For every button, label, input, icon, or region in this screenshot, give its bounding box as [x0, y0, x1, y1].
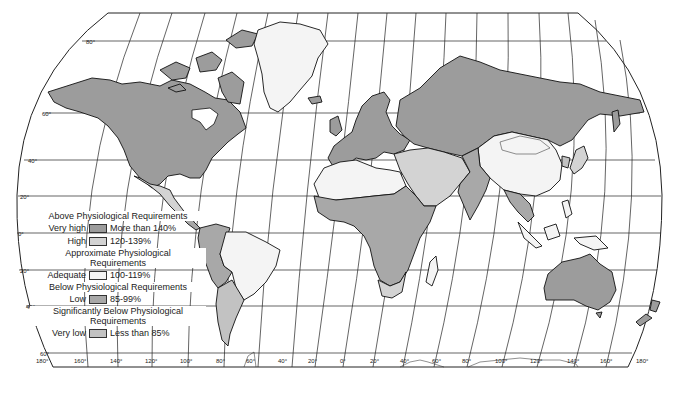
legend-range: 85-99%: [107, 294, 141, 304]
svg-text:100°: 100°: [180, 358, 193, 364]
svg-text:40°: 40°: [28, 158, 38, 164]
region-sakhalin: [612, 110, 620, 132]
svg-text:180°: 180°: [36, 358, 49, 364]
legend-row-adequate: Adequate 100-119%: [30, 269, 206, 281]
region-north-america: [48, 78, 246, 188]
legend-swatch-high: [89, 237, 107, 246]
legend-range: Less than 85%: [107, 328, 170, 338]
antarctica-coast: [244, 352, 578, 367]
legend-level: Adequate: [30, 270, 89, 280]
svg-text:160°: 160°: [74, 358, 87, 364]
region-korea: [562, 156, 570, 168]
legend-swatch-very-low: [89, 329, 107, 338]
svg-text:60°: 60°: [40, 351, 50, 357]
svg-text:60°: 60°: [246, 358, 256, 364]
region-china: [478, 132, 562, 196]
region-iceland: [308, 96, 322, 104]
longitude-labels: 180° 160° 140° 120° 100° 80° 60° 40° 20°…: [36, 358, 649, 364]
svg-text:20°: 20°: [308, 358, 318, 364]
svg-text:140°: 140°: [110, 358, 123, 364]
svg-text:100°: 100°: [495, 358, 508, 364]
svg-text:80°: 80°: [462, 358, 472, 364]
legend-swatch-very-high: [89, 224, 107, 233]
svg-text:60°: 60°: [42, 111, 52, 117]
svg-text:20°: 20°: [370, 358, 380, 364]
legend-heading-approximate: Approximate Physiological Requirements: [30, 248, 206, 268]
legend-range: More than 140%: [107, 223, 176, 233]
region-madagascar: [426, 256, 438, 286]
legend-swatch-low: [89, 295, 107, 304]
svg-text:40°: 40°: [278, 358, 288, 364]
svg-text:0°: 0°: [340, 358, 346, 364]
svg-text:20°: 20°: [20, 268, 30, 274]
svg-text:60°: 60°: [432, 358, 442, 364]
legend-range: 100-119%: [107, 270, 150, 280]
region-indonesia: [518, 222, 608, 250]
legend-level: Low: [30, 294, 89, 304]
legend-range: 120-139%: [107, 236, 151, 246]
svg-text:80°: 80°: [86, 39, 96, 45]
svg-text:80°: 80°: [216, 358, 226, 364]
legend-level: High: [30, 236, 89, 246]
legend-level: Very low: [30, 328, 89, 338]
svg-text:180°: 180°: [636, 358, 649, 364]
svg-text:120°: 120°: [530, 358, 543, 364]
legend-heading-significantly-below: Significantly Below Physiological Requir…: [30, 306, 206, 326]
svg-text:0°: 0°: [18, 231, 24, 237]
legend-swatch-adequate: [89, 271, 107, 280]
region-philippines: [562, 200, 572, 218]
svg-text:120°: 120°: [145, 358, 158, 364]
legend-row-very-low: Very low Less than 85%: [30, 327, 206, 339]
region-japan: [570, 146, 588, 174]
legend-row-very-high: Very high More than 140%: [30, 222, 206, 234]
legend-heading-above: Above Physiological Requirements: [30, 211, 206, 221]
legend-row-high: High 120-139%: [30, 235, 206, 247]
legend: Above Physiological Requirements Very hi…: [30, 211, 206, 340]
region-australia: [544, 254, 616, 310]
svg-text:160°: 160°: [600, 358, 613, 364]
legend-heading-below: Below Physiological Requirements: [30, 282, 206, 292]
svg-text:20°: 20°: [20, 194, 30, 200]
svg-text:140°: 140°: [567, 358, 580, 364]
legend-level: Very high: [30, 223, 89, 233]
legend-row-low: Low 85-99%: [30, 293, 206, 305]
region-tasmania: [596, 312, 602, 318]
region-uk: [330, 116, 342, 136]
